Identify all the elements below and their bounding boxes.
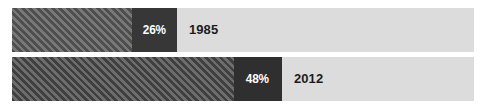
value-label-box-2012: 48% [234, 57, 282, 101]
category-label-1985: 1985 [189, 8, 218, 52]
bar-fill-1985 [12, 8, 132, 52]
value-label-box-1985: 26% [132, 8, 177, 52]
bar-fill-2012 [12, 57, 234, 101]
bar-chart: 26% 1985 48% 2012 [0, 0, 487, 109]
category-label-2012: 2012 [294, 57, 323, 101]
bar-row-1985: 26% 1985 [12, 8, 474, 52]
bar-row-2012: 48% 2012 [12, 57, 474, 101]
category-label-text-1985: 1985 [189, 23, 218, 37]
value-label-2012: 48% [246, 73, 269, 86]
value-label-1985: 26% [143, 24, 166, 37]
category-label-text-2012: 2012 [294, 72, 323, 86]
